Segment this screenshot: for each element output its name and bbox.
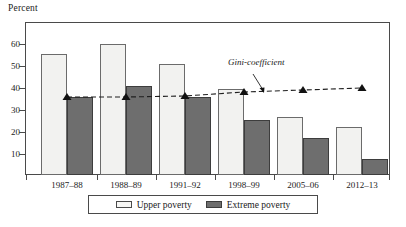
x-tick-label-2012-13: 2012–13	[346, 180, 378, 190]
bar-upper-1988-89	[100, 44, 126, 175]
y-tick-mark-20	[19, 132, 25, 133]
y-tick-mark-30	[19, 110, 25, 111]
y-tick-label-50: 50	[0, 61, 20, 71]
bar-extreme-1991-92	[185, 97, 211, 175]
legend-item-extreme-poverty: Extreme poverty	[206, 200, 291, 210]
y-tick-label-30: 30	[0, 105, 20, 115]
poverty-trend-chart: Percent 60 50 40 30 20 10 Gini-coeffici	[0, 0, 406, 227]
bar-upper-2005-06	[277, 117, 303, 175]
x-tick-mark-4	[274, 175, 275, 180]
bar-extreme-1998-99	[244, 120, 270, 175]
legend-swatch-extreme-poverty-icon	[206, 201, 222, 208]
x-tick-mark-start	[26, 175, 27, 180]
legend-item-upper-poverty: Upper poverty	[116, 200, 192, 210]
x-tick-mark-3	[215, 175, 216, 180]
chart-legend: Upper poverty Extreme poverty	[88, 195, 318, 214]
y-tick-label-40: 40	[0, 83, 20, 93]
x-tick-label-1987-88: 1987–88	[51, 180, 83, 190]
x-tick-mark-1	[97, 175, 98, 180]
bar-upper-2012-13	[336, 127, 362, 175]
y-tick-mark-60	[19, 44, 25, 45]
y-tick-mark-40	[19, 88, 25, 89]
bar-extreme-2005-06	[303, 138, 329, 175]
x-tick-label-1998-99: 1998–99	[228, 180, 260, 190]
legend-swatch-upper-poverty-icon	[116, 201, 132, 208]
y-tick-label-20: 20	[0, 127, 20, 137]
y-tick-label-60: 60	[0, 39, 20, 49]
x-tick-label-1991-92: 1991–92	[169, 180, 201, 190]
x-tick-mark-5	[333, 175, 334, 180]
bar-extreme-2012-13	[362, 159, 388, 175]
y-axis-title: Percent	[8, 3, 38, 13]
y-tick-mark-10	[19, 154, 25, 155]
x-tick-label-2005-06: 2005–06	[287, 180, 319, 190]
legend-label-upper-poverty: Upper poverty	[137, 200, 192, 210]
y-tick-label-10: 10	[0, 149, 20, 159]
legend-label-extreme-poverty: Extreme poverty	[227, 200, 291, 210]
bar-upper-1987-88	[41, 54, 67, 175]
y-tick-mark-50	[19, 66, 25, 67]
x-tick-mark-2	[156, 175, 157, 180]
bar-extreme-1987-88	[67, 97, 93, 175]
gini-coefficient-annotation: Gini-coefficient	[228, 57, 284, 67]
bar-extreme-1988-89	[126, 86, 152, 175]
bar-upper-1991-92	[159, 64, 185, 175]
x-tick-label-1988-89: 1988–89	[110, 180, 142, 190]
x-tick-mark-end	[389, 175, 390, 180]
bar-upper-1998-99	[218, 89, 244, 175]
